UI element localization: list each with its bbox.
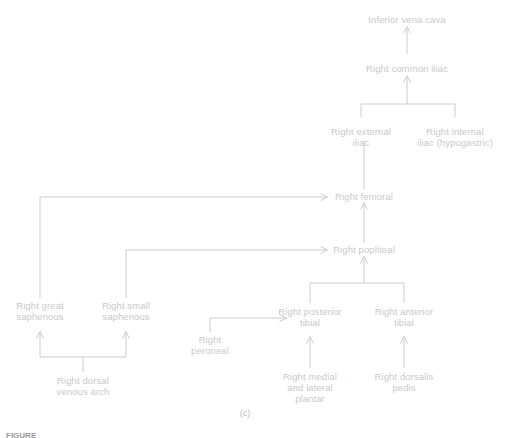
edge-tibial-junction-bar xyxy=(310,283,404,303)
node-inferior-vena-cava: Inferior vena cava xyxy=(352,14,462,25)
node-right-dorsal-venous-arch: Right dorsal venous arch xyxy=(41,375,125,397)
figure-caption: FIGURE xyxy=(6,431,506,438)
node-right-dorsalis-pedis: Right dorsalis pedis xyxy=(360,371,448,393)
node-right-small-saphenous: Right small saphenous xyxy=(86,300,166,322)
node-right-great-saphenous: Right great saphenous xyxy=(0,300,80,322)
node-right-anterior-tibial: Right anterior tibial xyxy=(360,306,448,328)
node-right-femoral: Right femoral xyxy=(319,191,409,202)
edge-great-saphenous-to-femoral xyxy=(40,197,327,298)
edge-iliac-bifurcation-bar xyxy=(361,104,455,117)
node-right-peroneal: Right peroneal xyxy=(175,334,245,356)
node-right-popliteal: Right popliteal xyxy=(318,244,410,255)
panel-label-c: (c) xyxy=(240,408,251,418)
edge-small-saphenous-to-popliteal xyxy=(126,250,327,298)
figure-caption-prefix: FIGURE xyxy=(6,431,36,438)
venous-drainage-flow-diagram: Inferior vena cava Right common iliac Ri… xyxy=(0,0,507,438)
node-right-internal-iliac: Right internal iliac (hypogastric) xyxy=(403,126,507,148)
node-right-medial-lateral-plantar: Right medial and lateral plantar xyxy=(267,371,353,404)
node-right-common-iliac: Right common iliac xyxy=(350,63,465,74)
node-right-posterior-tibial: Right posterior tibial xyxy=(264,306,356,328)
node-right-external-iliac: Right external iliac xyxy=(314,126,409,148)
